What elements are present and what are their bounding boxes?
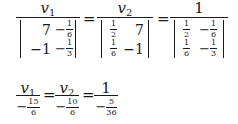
equals-sign: = [43,88,56,103]
equals-sign: = [82,88,95,103]
fraction-v1-over-value: v1 −156 [16,78,40,118]
denominator-value: −156 [16,98,40,117]
denominator-value: −106 [55,98,79,117]
fraction-bar [94,95,118,96]
fraction-v2-over-value: v2 −106 [55,78,79,118]
evaluated-ratio-equation: v1 −156 = v2 −106 = 1 −536 [0,0,238,124]
numerator-one: 1 [94,81,118,96]
fraction-bar [55,95,79,96]
denominator-value: −536 [94,98,118,117]
fraction-one-over-value: 1 −536 [94,78,118,118]
fraction-bar [16,95,40,96]
